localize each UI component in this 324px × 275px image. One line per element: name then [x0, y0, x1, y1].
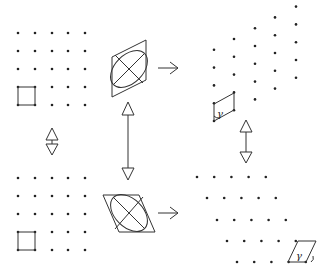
- top-left-unit-cell: [18, 87, 35, 105]
- lattice-dot: [84, 68, 87, 71]
- lattice-dot: [51, 231, 54, 234]
- lattice-dot: [295, 77, 298, 80]
- lattice-dot: [240, 197, 243, 200]
- bottom-left-square-lattice: [17, 177, 87, 252]
- lattice-dot: [254, 80, 257, 83]
- lattice-dot: [274, 70, 277, 73]
- lattice-dot: [84, 104, 87, 107]
- lattice-dot: [213, 176, 216, 179]
- lattice-dot: [277, 240, 280, 243]
- lattice-dot: [67, 104, 70, 107]
- lattice-dot: [260, 240, 263, 243]
- lattice-dot: [84, 86, 87, 89]
- lattice-dot: [295, 5, 298, 8]
- lattice-dot: [254, 45, 257, 48]
- lattice-dot: [206, 197, 209, 200]
- lattice-dot: [67, 50, 70, 53]
- lattice-dot: [17, 213, 20, 216]
- bottom-right-arrow-icon: [158, 207, 178, 219]
- lattice-dot: [233, 38, 236, 41]
- lattice-dot: [84, 231, 87, 234]
- lattice-dot: [51, 86, 54, 89]
- bottom-angle-label: γ: [296, 250, 302, 261]
- bottom-right-unit-cell: [288, 241, 316, 262]
- right-double-arrow-icon: [240, 120, 252, 163]
- lattice-dot: [226, 240, 229, 243]
- lattice-dot: [253, 261, 256, 264]
- lattice-dot: [84, 177, 87, 180]
- lattice-dot: [67, 213, 70, 216]
- top-ellipse-parallelogram: [104, 40, 155, 97]
- lattice-dot: [265, 176, 268, 179]
- lattice-dot: [230, 176, 233, 179]
- lattice-dot: [84, 195, 87, 198]
- lattice-dot: [67, 231, 70, 234]
- lattice-dot: [295, 240, 298, 243]
- lattice-dot: [254, 63, 257, 66]
- lattice-dot: [196, 176, 199, 179]
- lattice-dot: [285, 219, 288, 222]
- lattice-dot: [34, 32, 37, 35]
- lattice-dot: [84, 213, 87, 216]
- lattice-dot: [213, 49, 216, 52]
- bottom-right-sheared-lattice: [196, 176, 307, 264]
- lattice-dot: [17, 177, 20, 180]
- lattice-dot: [51, 68, 54, 71]
- lattice-dot: [17, 32, 20, 35]
- lattice-dot: [34, 213, 37, 216]
- lattice-dot: [254, 98, 257, 101]
- lattice-dot: [267, 219, 270, 222]
- lattice-dot: [295, 41, 298, 44]
- lattice-dot: [236, 261, 239, 264]
- lattice-dot: [216, 219, 219, 222]
- lattice-dot: [51, 50, 54, 53]
- lattice-dot: [34, 50, 37, 53]
- lattice-dot: [51, 213, 54, 216]
- top-angle-label: γ: [217, 108, 223, 119]
- lattice-dot: [67, 68, 70, 71]
- lattice-dot: [17, 50, 20, 53]
- lattice-dot: [233, 219, 236, 222]
- lattice-dot: [274, 34, 277, 37]
- lattice-dot: [254, 27, 257, 30]
- lattice-dot: [84, 50, 87, 53]
- lattice-dot: [51, 249, 54, 252]
- lattice-dot: [67, 32, 70, 35]
- lattice-dot: [295, 23, 298, 26]
- top-right-sheared-lattice: [213, 5, 298, 122]
- lattice-dot: [243, 240, 246, 243]
- diagram-svg: γ γ: [0, 0, 324, 275]
- lattice-dot: [67, 86, 70, 89]
- lattice-dot: [275, 197, 278, 200]
- lattice-dot: [17, 195, 20, 198]
- lattice-dot: [223, 197, 226, 200]
- lattice-dot: [213, 66, 216, 69]
- top-right-arrow-icon: [158, 62, 178, 74]
- left-double-arrow-icon: [46, 128, 58, 155]
- lattice-dot: [270, 261, 273, 264]
- lattice-dot: [84, 32, 87, 35]
- lattice-dot: [233, 56, 236, 59]
- lattice-dot: [34, 195, 37, 198]
- lattice-dot: [67, 195, 70, 198]
- lattice-dot: [247, 176, 250, 179]
- lattice-dot: [51, 32, 54, 35]
- lattice-dot: [233, 73, 236, 76]
- lattice-dot: [51, 104, 54, 107]
- lattice-dot: [295, 59, 298, 62]
- lattice-dot: [274, 52, 277, 55]
- top-left-square-lattice: [17, 32, 87, 107]
- lattice-dot: [250, 219, 253, 222]
- lattice-dot: [51, 195, 54, 198]
- lattice-dot: [17, 68, 20, 71]
- lattice-dot: [274, 16, 277, 19]
- lattice-dot: [257, 197, 260, 200]
- lattice-dot: [213, 84, 216, 87]
- lattice-dot: [274, 87, 277, 90]
- bottom-ellipse-parallelogram: [103, 188, 155, 239]
- lattice-dot: [67, 177, 70, 180]
- lattice-dot: [51, 177, 54, 180]
- lattice-shear-diagram: γ γ: [0, 0, 324, 275]
- center-double-arrow-icon: [122, 102, 134, 180]
- lattice-dot: [84, 249, 87, 252]
